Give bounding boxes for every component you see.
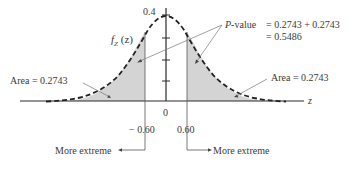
x-axis-variable: z [308, 95, 312, 106]
pvalue-equation-line2: = 0.5486 [266, 31, 302, 42]
area-left-label: Area = 0.2743 [10, 75, 68, 86]
x-tick-label-pos060: 0.60 [177, 124, 195, 135]
right-tail-shade [187, 32, 262, 101]
pvalue-suffix: -value [231, 19, 256, 30]
normal-pvalue-figure: 0.4 fZ (z) P-value = 0.2743 + 0.2743 = 0… [0, 0, 352, 177]
f-argument: (z) [121, 33, 133, 45]
x-tick-label-neg060: − 0.60 [129, 124, 155, 135]
density-function-label: fZ (z) [111, 34, 133, 50]
x-tick-label-0: 0 [163, 107, 168, 118]
y-tick-label-04: 0.4 [143, 6, 156, 17]
more-extreme-right-label: More extreme [213, 145, 269, 156]
pvalue-equation-line1: = 0.2743 + 0.2743 [266, 19, 340, 30]
pvalue-label: P-value [225, 19, 256, 30]
area-right-leader [236, 79, 267, 96]
extreme-right-arrow-icon [208, 148, 212, 151]
left-tail-shade [70, 32, 145, 101]
extreme-left-arrow-icon [118, 148, 122, 151]
more-extreme-left-label: More extreme [55, 145, 111, 156]
area-right-label: Area = 0.2743 [271, 72, 329, 83]
